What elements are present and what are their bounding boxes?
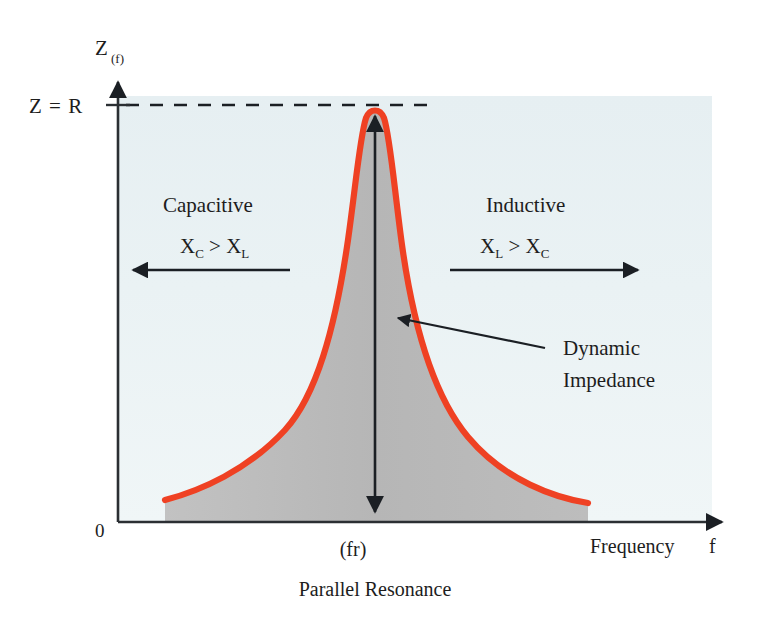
capacitive-formula-sub1: C: [195, 246, 204, 261]
capacitive-formula-x1: X: [180, 234, 195, 258]
resonance-figure: Z (f) Z = R 0 Capacitive XC > XL Inducti…: [0, 0, 761, 631]
dynamic-impedance-label-line1: Dynamic: [563, 336, 640, 360]
inductive-formula: XL > XC: [480, 234, 549, 261]
figure-caption: Parallel Resonance: [299, 578, 452, 600]
inductive-formula-sub2: C: [541, 246, 550, 261]
inductive-formula-sub1: L: [495, 246, 503, 261]
inductive-formula-x1: X: [480, 234, 495, 258]
capacitive-formula-operator: >: [204, 234, 226, 258]
inductive-formula-operator: >: [503, 234, 525, 258]
x-axis-tick-label-fr: (fr): [340, 538, 367, 561]
capacitive-region-label: Capacitive: [163, 193, 253, 217]
x-axis-symbol: f: [709, 535, 716, 557]
inductive-region-label: Inductive: [486, 193, 565, 217]
capacitive-formula-x2: X: [226, 234, 241, 258]
dynamic-impedance-label-line2: Impedance: [563, 368, 655, 392]
y-axis-tick-label-zr: Z = R: [29, 94, 83, 118]
capacitive-formula: XC > XL: [180, 234, 249, 261]
x-axis-label: Frequency: [590, 535, 674, 558]
capacitive-formula-sub2: L: [241, 246, 249, 261]
parallel-resonance-chart: Z (f) Z = R 0 Capacitive XC > XL Inducti…: [0, 0, 761, 631]
origin-label: 0: [95, 520, 105, 541]
y-axis-label: Z: [95, 36, 108, 60]
y-axis-label-subscript: (f): [111, 51, 124, 66]
inductive-formula-x2: X: [525, 234, 540, 258]
